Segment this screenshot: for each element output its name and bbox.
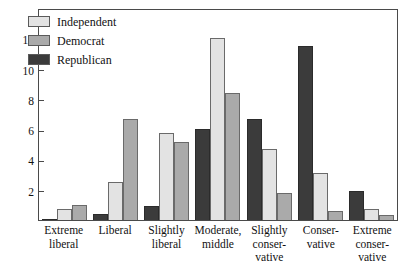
bar xyxy=(247,119,262,220)
bar xyxy=(262,149,277,220)
x-axis-label: Slightlyliberal xyxy=(141,224,192,265)
legend-label: Democrat xyxy=(57,34,104,48)
legend-item: Republican xyxy=(28,51,116,68)
bar xyxy=(328,211,343,220)
x-axis-label: Conser-vative xyxy=(295,224,346,265)
x-axis-label: Extremeconser-vative xyxy=(347,224,398,265)
x-axis-label-line: Extreme xyxy=(38,224,89,238)
legend-swatch xyxy=(28,54,50,65)
x-axis-label-line: liberal xyxy=(141,238,192,252)
legend: IndependentDemocratRepublican xyxy=(28,13,116,70)
x-axis-label-line: Conser- xyxy=(295,224,346,238)
x-axis-label-line: Slightly xyxy=(244,224,295,238)
bar-group xyxy=(346,10,397,220)
bar xyxy=(195,129,210,220)
bar xyxy=(174,142,189,220)
bar xyxy=(349,191,364,220)
x-axis-label: Extremeliberal xyxy=(38,224,89,265)
y-axis-tick-label: 6 xyxy=(28,123,34,139)
x-axis-label-line: middle xyxy=(192,238,243,252)
x-axis-label: Moderate,middle xyxy=(192,224,243,265)
bar xyxy=(108,182,123,220)
legend-swatch xyxy=(28,16,50,27)
bar xyxy=(225,93,240,220)
bar-group xyxy=(295,10,346,220)
bar xyxy=(144,206,159,220)
legend-swatch xyxy=(28,35,50,46)
bar xyxy=(210,38,225,220)
bar xyxy=(298,46,313,220)
x-axis-label-line: Liberal xyxy=(89,224,140,238)
bar-group xyxy=(192,10,243,220)
bar xyxy=(379,215,394,220)
legend-label: Republican xyxy=(57,53,112,67)
bar xyxy=(57,209,72,220)
x-axis-label-line: Extreme xyxy=(347,224,398,238)
bar xyxy=(72,205,87,220)
bar xyxy=(313,173,328,220)
legend-item: Independent xyxy=(28,13,116,30)
x-axis-label-line: Slightly xyxy=(141,224,192,238)
y-axis-tick-label: 4 xyxy=(28,153,34,169)
x-axis-label-line: Moderate, xyxy=(192,224,243,238)
x-axis-label: Liberal xyxy=(89,224,140,265)
x-axis-label-line: vative xyxy=(295,238,346,252)
legend-label: Independent xyxy=(57,15,116,29)
x-axis-label-line: conser- xyxy=(347,238,398,252)
x-axis-label-line: liberal xyxy=(38,238,89,252)
bar xyxy=(277,193,292,220)
bar xyxy=(364,209,379,220)
legend-item: Democrat xyxy=(28,32,116,49)
x-axis-label-line: vative xyxy=(244,251,295,265)
bar xyxy=(93,214,108,220)
bar xyxy=(42,219,57,220)
bar-chart: 24681012 ExtremeliberalLiberalSlightlyli… xyxy=(0,0,406,275)
bar xyxy=(123,119,138,220)
bar xyxy=(159,133,174,220)
bar-group xyxy=(141,10,192,220)
x-axis-label-line: vative xyxy=(347,251,398,265)
x-axis-label-line: conser- xyxy=(244,238,295,252)
y-axis-tick-label: 2 xyxy=(28,184,34,200)
bar-group xyxy=(244,10,295,220)
x-axis: ExtremeliberalLiberalSlightlyliberalMode… xyxy=(38,224,398,265)
y-axis-tick-label: 8 xyxy=(28,93,34,109)
x-axis-label: Slightlyconser-vative xyxy=(244,224,295,265)
